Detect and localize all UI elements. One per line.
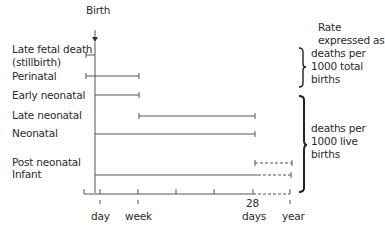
rate-title: Rate expressed as (318, 21, 385, 47)
tick-label-28: 28 (246, 197, 259, 210)
row-label-late-neonatal: Late neonatal (12, 109, 82, 122)
tick-label-day: day (91, 210, 110, 223)
tick-label-year: year (282, 210, 305, 223)
group-live-births: deaths per 1000 live births (311, 122, 366, 161)
row-label-early-neonatal: Early neonatal (12, 89, 85, 102)
arrow-head-icon (92, 37, 98, 42)
group-total-births: deaths per 1000 total births (311, 47, 366, 86)
tick-label-days: days (242, 210, 266, 223)
row-label-neonatal: Neonatal (12, 127, 58, 140)
brace-total-births (299, 48, 306, 87)
tick-label-week: week (125, 210, 152, 223)
row-label-perinatal: Perinatal (12, 70, 56, 83)
row-label-infant: Infant (12, 168, 41, 181)
brace-live-births (299, 96, 307, 192)
birth-label: Birth (86, 4, 110, 17)
row-label-late-fetal: Late fetal death (stillbirth) (12, 43, 92, 69)
